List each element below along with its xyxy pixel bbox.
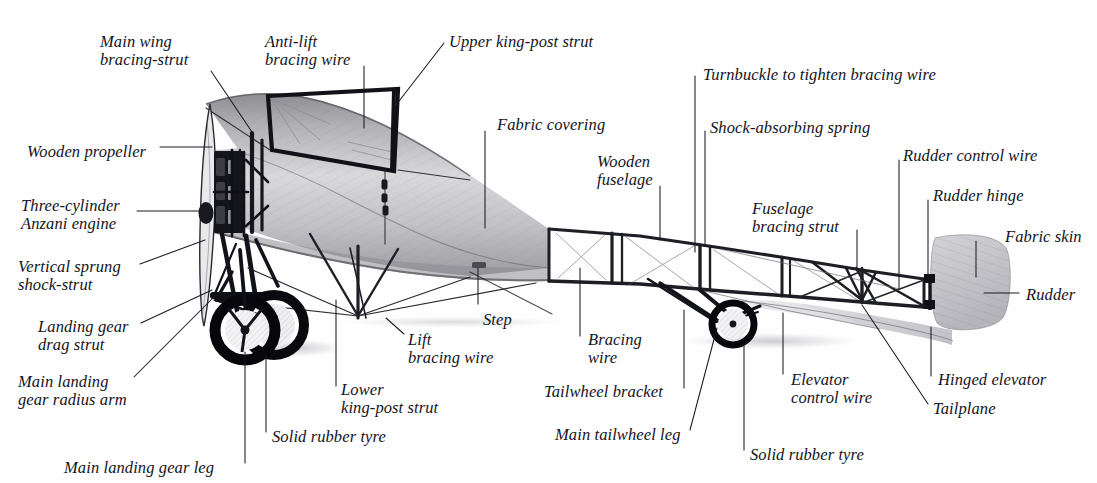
rudder-hinge-upper [924,274,935,283]
propeller-hub [199,202,214,224]
callout-tailwheel-bracket: Tailwheel bracket [544,383,663,401]
callout-landing-gear-drag-strut: Landing gear drag strut [38,318,129,355]
step-marker [472,262,486,268]
callout-main-tailwheel-leg: Main tailwheel leg [555,426,681,444]
callout-lower-king-post-strut: Lower king-post strut [341,381,438,418]
callout-three-cylinder-anzani: Three-cylinder Anzani engine [21,197,120,234]
callout-solid-rubber-tyre-tail: Solid rubber tyre [750,446,864,464]
callout-main-landing-gear-leg: Main landing gear leg [64,459,214,477]
callout-solid-rubber-tyre-front: Solid rubber tyre [272,428,386,446]
callout-fabric-covering: Fabric covering [497,116,605,134]
callout-hinged-elevator: Hinged elevator [938,371,1046,389]
callout-fabric-skin: Fabric skin [1005,228,1082,246]
callout-lift-bracing-wire: Lift bracing wire [408,331,493,368]
callout-upper-king-post-strut: Upper king-post strut [449,33,593,51]
rear-fuselage-truss [549,229,924,307]
callout-turnbuckle-bracing-wire: Turnbuckle to tighten bracing wire [703,66,936,84]
callout-rudder-control-wire: Rudder control wire [903,147,1038,165]
figure-canvas: Main wing bracing-strutAnti-lift bracing… [0,0,1097,483]
callout-anti-lift-bracing-wire: Anti-lift bracing wire [265,33,350,70]
callout-elevator-control-wire: Elevator control wire [791,371,872,408]
ground-shadows [242,316,866,358]
callout-rudder: Rudder [1026,286,1075,304]
callout-tailplane: Tailplane [933,400,996,418]
callout-wooden-propeller: Wooden propeller [27,143,146,161]
callout-main-landing-gear-radius-arm: Main landing gear radius arm [18,373,127,410]
callout-vertical-sprung-shock-strut: Vertical sprung shock-strut [18,258,121,295]
callout-shock-absorbing-spring: Shock-absorbing spring [710,119,870,137]
callout-rudder-hinge: Rudder hinge [933,187,1024,205]
callout-bracing-wire: Bracing wire [588,331,642,368]
callout-wooden-fuselage: Wooden fuselage [597,153,653,190]
upper-king-post-strut-member [392,90,394,170]
rudder-hinge-lower [924,300,935,309]
callout-main-wing-bracing-strut: Main wing bracing-strut [100,33,188,70]
callout-step: Step [483,311,512,329]
tailwheel [712,303,754,345]
callout-fuselage-bracing-strut: Fuselage bracing strut [752,200,839,237]
